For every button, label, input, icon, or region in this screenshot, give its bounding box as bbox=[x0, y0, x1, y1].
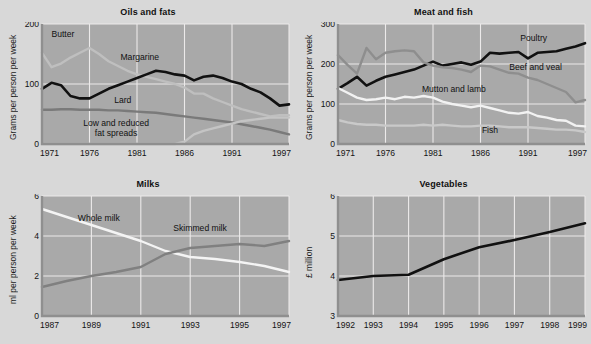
x-tick-label-vegetables: 1992 bbox=[336, 320, 355, 330]
x-tick-label-milks: 1987 bbox=[40, 320, 59, 330]
y-tick-label-vegetables: 4 bbox=[330, 271, 335, 281]
plot-background-vegetables bbox=[338, 196, 585, 316]
chart-grid: Oils and fats Grams per person per week … bbox=[0, 0, 591, 344]
x-tick-label-oils-and-fats: 1971 bbox=[40, 148, 59, 158]
y-tick-label-vegetables: 5 bbox=[330, 231, 335, 241]
x-tick-label-oils-and-fats: 1981 bbox=[127, 148, 146, 158]
chart-title-vegetables: Vegetables bbox=[296, 179, 591, 189]
chart-title-meat-and-fish: Meat and fish bbox=[296, 7, 591, 17]
x-tick-label-vegetables: 1998 bbox=[540, 320, 559, 330]
y-tick-label-vegetables: 3 bbox=[330, 311, 335, 321]
x-tick-label-meat-and-fish: 1986 bbox=[471, 148, 490, 158]
x-tick-label-oils-and-fats: 1986 bbox=[175, 148, 194, 158]
y-axis-label-vegetables: £ million bbox=[304, 227, 314, 297]
x-tick-label-milks: 1997 bbox=[272, 320, 291, 330]
chart-svg-oils-and-fats: ButterMargarineLardLow and reducedfat sp… bbox=[24, 22, 292, 164]
x-tick-label-meat-and-fish: 1981 bbox=[423, 148, 442, 158]
plot-area-milks: Whole milkSkimmed milk024619871989199119… bbox=[24, 194, 292, 336]
x-tick-label-milks: 1993 bbox=[181, 320, 200, 330]
y-tick-label-milks: 4 bbox=[34, 231, 39, 241]
chart-title-oils-and-fats: Oils and fats bbox=[0, 7, 296, 17]
y-axis-label-milks: ml per person per week bbox=[8, 204, 18, 316]
y-tick-label-milks: 0 bbox=[34, 311, 39, 321]
series-label-oils-and-fats-1: Margarine bbox=[120, 52, 159, 62]
y-tick-label-oils-and-fats: 200 bbox=[25, 22, 40, 29]
series-label-meat-and-fish-2: Mutton and lamb bbox=[422, 84, 486, 94]
series-label-meat-and-fish-3: Fish bbox=[482, 125, 498, 135]
chart-panel-vegetables: Vegetables £ million 3456199219931994199… bbox=[296, 172, 591, 344]
x-tick-label-oils-and-fats: 1997 bbox=[272, 148, 291, 158]
chart-svg-vegetables: 345619921993199419951996199719981999 bbox=[320, 194, 588, 336]
series-label-milks-1: Skimmed milk bbox=[173, 223, 227, 233]
series-label-oils-and-fats-2: Lard bbox=[114, 95, 131, 105]
x-tick-label-milks: 1991 bbox=[131, 320, 150, 330]
y-tick-label-milks: 2 bbox=[34, 271, 39, 281]
x-tick-label-vegetables: 1995 bbox=[434, 320, 453, 330]
y-axis-label-oils-and-fats: Grams per person per week bbox=[8, 30, 18, 145]
plot-area-vegetables: 345619921993199419951996199719981999 bbox=[320, 194, 588, 336]
x-tick-label-milks: 1995 bbox=[230, 320, 249, 330]
x-tick-label-vegetables: 1996 bbox=[470, 320, 489, 330]
x-tick-label-meat-and-fish: 1991 bbox=[518, 148, 537, 158]
chart-panel-oils-and-fats: Oils and fats Grams per person per week … bbox=[0, 0, 296, 172]
chart-svg-meat-and-fish: PoultryBeef and vealMutton and lambFish0… bbox=[320, 22, 588, 164]
y-tick-label-oils-and-fats: 0 bbox=[34, 139, 39, 149]
series-label-meat-and-fish-1: Beef and veal bbox=[509, 62, 562, 72]
series-label-milks-0: Whole milk bbox=[78, 213, 121, 223]
series-label-meat-and-fish-0: Poultry bbox=[520, 33, 547, 43]
chart-svg-milks: Whole milkSkimmed milk024619871989199119… bbox=[24, 194, 292, 336]
y-tick-label-oils-and-fats: 100 bbox=[25, 79, 40, 89]
x-tick-label-vegetables: 1993 bbox=[364, 320, 383, 330]
chart-panel-meat-and-fish: Meat and fish Grams per person per week … bbox=[296, 0, 591, 172]
x-tick-label-vegetables: 1997 bbox=[505, 320, 524, 330]
chart-panel-milks: Milks ml per person per week Whole milkS… bbox=[0, 172, 296, 344]
y-tick-label-meat-and-fish: 100 bbox=[321, 99, 336, 109]
x-tick-label-meat-and-fish: 1971 bbox=[336, 148, 355, 158]
y-tick-label-vegetables: 6 bbox=[330, 194, 335, 201]
x-tick-label-milks: 1989 bbox=[82, 320, 101, 330]
x-tick-label-vegetables: 1994 bbox=[399, 320, 418, 330]
x-tick-label-oils-and-fats: 1976 bbox=[80, 148, 99, 158]
x-tick-label-oils-and-fats: 1991 bbox=[222, 148, 241, 158]
y-tick-label-meat-and-fish: 300 bbox=[321, 22, 336, 29]
x-tick-label-meat-and-fish: 1997 bbox=[568, 148, 587, 158]
y-axis-label-meat-and-fish: Grams per person per week bbox=[304, 30, 314, 145]
x-tick-label-vegetables: 1999 bbox=[568, 320, 587, 330]
y-tick-label-meat-and-fish: 200 bbox=[321, 59, 336, 69]
plot-area-oils-and-fats: ButterMargarineLardLow and reducedfat sp… bbox=[24, 22, 292, 164]
chart-title-milks: Milks bbox=[0, 179, 296, 189]
y-tick-label-milks: 6 bbox=[34, 194, 39, 201]
y-tick-label-meat-and-fish: 0 bbox=[330, 139, 335, 149]
series-label-oils-and-fats-0: Butter bbox=[51, 29, 74, 39]
x-tick-label-meat-and-fish: 1976 bbox=[376, 148, 395, 158]
plot-area-meat-and-fish: PoultryBeef and vealMutton and lambFish0… bbox=[320, 22, 588, 164]
